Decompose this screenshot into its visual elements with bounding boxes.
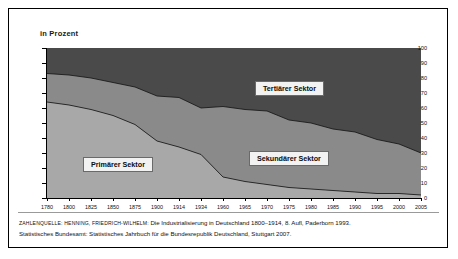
band-label-secondary: Sekundärer Sektor	[249, 151, 329, 166]
x-tick-mark	[113, 198, 114, 201]
x-tick-mark	[421, 198, 422, 201]
axis-title: in Prozent	[40, 29, 78, 38]
source-line-2: Statistisches Bundesamt: Statistisches J…	[19, 229, 439, 240]
plot-area: 0102030405060708090100 17801800182518501…	[31, 45, 427, 203]
y-tick-label: 100	[414, 45, 427, 51]
y-tick-mark	[42, 123, 46, 124]
y-tick-label: 70	[414, 90, 427, 96]
source-line-1-rest: Die Industrialisierung in Deutschland 18…	[150, 219, 350, 226]
y-tick-mark	[42, 78, 46, 79]
y-tick-mark	[42, 93, 46, 94]
source-line-1: ZAHLENQUELLE: HENNING, FRIEDRICH-WILHELM…	[19, 218, 439, 229]
source-author: HENNING, FRIEDRICH-WILHELM:	[64, 220, 148, 226]
y-tick-mark	[42, 108, 46, 109]
area-chart-svg	[47, 48, 421, 198]
x-tick-mark	[289, 198, 290, 201]
x-tick-mark	[69, 198, 70, 201]
x-tick-mark	[377, 198, 378, 201]
y-tick-label: 20	[414, 165, 427, 171]
y-tick-label: 50	[414, 120, 427, 126]
x-tick-mark	[47, 198, 48, 201]
x-axis-line	[46, 198, 422, 199]
y-tick-mark	[42, 153, 46, 154]
x-tick-mark	[157, 198, 158, 201]
x-tick-mark	[399, 198, 400, 201]
figure-panel: in Prozent 0102030405060708090100 178018…	[8, 8, 448, 248]
y-tick-mark	[42, 183, 46, 184]
y-tick-label: 30	[414, 150, 427, 156]
x-tick-mark	[245, 198, 246, 201]
y-tick-mark	[42, 138, 46, 139]
y-tick-label: 80	[414, 75, 427, 81]
x-tick-mark	[355, 198, 356, 201]
band-label-primary: Primärer Sektor	[83, 157, 153, 172]
source-label: ZAHLENQUELLE:	[19, 220, 63, 226]
y-tick-label: 90	[414, 60, 427, 66]
y-tick-mark	[42, 48, 46, 49]
x-tick-mark	[311, 198, 312, 201]
y-axis-line	[46, 48, 47, 199]
x-tick-mark	[135, 198, 136, 201]
source-divider	[18, 212, 439, 213]
stacked-area-plot	[47, 48, 421, 198]
y-tick-label: 10	[414, 180, 427, 186]
source-note: ZAHLENQUELLE: HENNING, FRIEDRICH-WILHELM…	[19, 218, 439, 239]
x-tick-mark	[267, 198, 268, 201]
y-tick-mark	[42, 198, 46, 199]
x-tick-label: 2005	[408, 204, 434, 211]
x-tick-mark	[333, 198, 334, 201]
x-tick-mark	[223, 198, 224, 201]
y-tick-mark	[42, 168, 46, 169]
y-tick-label: 60	[414, 105, 427, 111]
x-tick-mark	[179, 198, 180, 201]
y-tick-label: 40	[414, 135, 427, 141]
x-tick-mark	[201, 198, 202, 201]
band-label-tertiary: Tertiärer Sektor	[255, 81, 324, 96]
y-tick-mark	[42, 63, 46, 64]
x-tick-mark	[91, 198, 92, 201]
